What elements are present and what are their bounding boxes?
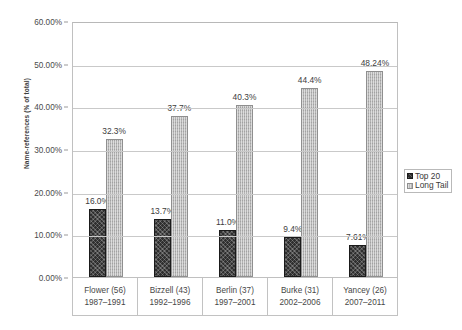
legend-item[interactable]: Top 20 <box>407 172 448 180</box>
bar-group: 16.0%32.3% <box>73 23 138 277</box>
chart-legend: Top 20Long Tail <box>404 169 452 193</box>
y-axis-tick-mark <box>64 235 68 236</box>
y-axis-tick-mark <box>64 64 68 65</box>
legend-item-label: Top 20 <box>415 172 440 180</box>
x-axis-category-name: Berlin (37) <box>216 286 254 296</box>
y-axis-tick-label: 50.00% <box>34 60 62 69</box>
gridline <box>73 194 397 195</box>
y-axis-tick-label: 0.00% <box>39 274 62 283</box>
bar-chart: Name-references (% of total) 60.00%50.00… <box>0 0 462 330</box>
bar-top-20[interactable] <box>89 209 106 277</box>
y-axis-tick-label: 40.00% <box>34 103 62 112</box>
y-axis-tick-label: 60.00% <box>34 18 62 27</box>
bar-group: 7.61%48.24% <box>334 23 399 277</box>
bar-long-tail[interactable] <box>301 88 318 277</box>
bar-value-label: 40.3% <box>233 92 257 102</box>
bar-value-label: 9.4% <box>283 224 302 234</box>
bars-layer: 16.0%32.3%13.7%37.7%11.0%40.3%9.4%44.4%7… <box>73 23 397 277</box>
legend-item-label: Long Tail <box>415 181 448 189</box>
bar-top-20[interactable] <box>154 219 171 277</box>
x-axis-category-cell: Berlin (37)1997–2001 <box>202 278 267 315</box>
x-axis-category-name: Burke (31) <box>281 286 319 296</box>
y-axis-tick-label: 30.00% <box>34 146 62 155</box>
bar-top-20[interactable] <box>349 245 366 277</box>
y-axis-tick-mark <box>64 192 68 193</box>
x-axis-category-cell: Flower (56)1987–1991 <box>72 278 137 315</box>
legend-swatch-icon <box>407 183 413 189</box>
gridline <box>73 66 397 67</box>
x-axis-category-name: Yancey (26) <box>343 286 387 296</box>
x-axis-category-years: 1987–1991 <box>85 298 126 308</box>
x-axis-category-cell: Bizzell (43)1992–1996 <box>137 278 202 315</box>
x-axis-category-years: 1992–1996 <box>150 298 191 308</box>
bar-long-tail[interactable] <box>171 116 188 277</box>
x-axis-category-years: 2007–2011 <box>345 298 385 308</box>
bar-long-tail[interactable] <box>236 105 253 277</box>
y-axis-tick-label: 10.00% <box>34 231 62 240</box>
y-axis-tick-mark <box>64 278 68 279</box>
y-axis-tick-labels: 60.00%50.00%40.00%30.00%20.00%10.00%0.00… <box>14 22 68 278</box>
bar-long-tail[interactable] <box>366 71 383 277</box>
y-axis-tick-mark <box>64 150 68 151</box>
bar-value-label: 44.4% <box>298 75 322 85</box>
gridline <box>73 236 397 237</box>
y-axis-tick-mark <box>64 22 68 23</box>
x-axis-category-cell: Yancey (26)2007–2011 <box>332 278 397 315</box>
legend-swatch-icon <box>407 173 413 179</box>
y-axis-tick-label: 20.00% <box>34 188 62 197</box>
x-axis-category-years: 1997–2001 <box>215 298 256 308</box>
plot-area: 16.0%32.3%13.7%37.7%11.0%40.3%9.4%44.4%7… <box>72 22 398 278</box>
bar-group: 13.7%37.7% <box>138 23 203 277</box>
y-axis-tick-mark <box>64 107 68 108</box>
bar-value-label: 48.24% <box>361 58 389 68</box>
bar-top-20[interactable] <box>284 237 301 277</box>
bar-group: 9.4%44.4% <box>269 23 334 277</box>
bar-value-label: 32.3% <box>102 126 126 136</box>
x-axis-category-years: 2002–2006 <box>280 298 321 308</box>
legend-item[interactable]: Long Tail <box>407 181 448 189</box>
bar-group: 11.0%40.3% <box>203 23 268 277</box>
gridline <box>73 151 397 152</box>
x-axis-category-name: Flower (56) <box>84 286 125 296</box>
gridline <box>73 108 397 109</box>
bar-long-tail[interactable] <box>106 139 123 277</box>
x-axis-category-name: Bizzell (43) <box>150 286 191 296</box>
x-axis-category-table: Flower (56)1987–1991Bizzell (43)1992–199… <box>72 278 398 316</box>
x-axis-category-cell: Burke (31)2002–2006 <box>267 278 332 315</box>
